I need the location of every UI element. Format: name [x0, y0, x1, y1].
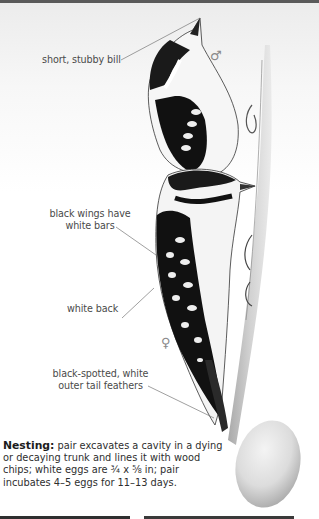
callout-tail-line1: black-spotted, white — [48, 368, 153, 380]
egg — [228, 414, 309, 513]
callout-wings-line2: white bars — [40, 220, 140, 232]
callout-tail: black-spotted, white outer tail feathers — [48, 368, 153, 392]
nesting-paragraph: Nesting: pair excavates a cavity in a dy… — [3, 440, 228, 489]
male-woodpecker — [148, 18, 256, 175]
callout-tail-line2: outer tail feathers — [48, 380, 153, 392]
callout-back: white back — [67, 303, 118, 315]
male-symbol-icon: ♂ — [210, 49, 222, 62]
callout-wings-line1: black wings have — [40, 208, 140, 220]
callout-bill: short, stubby bill — [42, 54, 121, 66]
tree-trunk — [228, 45, 272, 445]
female-symbol-icon: ♀ — [161, 336, 171, 349]
callout-wings: black wings have white bars — [40, 208, 140, 232]
nesting-heading: Nesting: — [3, 439, 54, 452]
